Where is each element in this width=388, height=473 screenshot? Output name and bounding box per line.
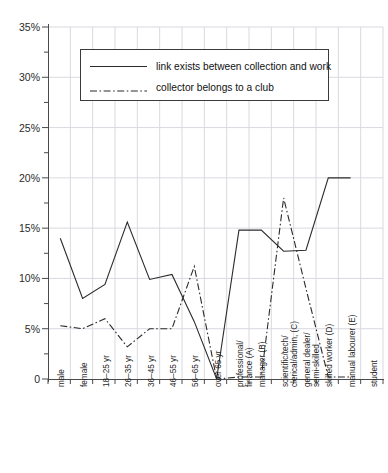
x-tick-label-14: student [370, 360, 379, 387]
dashdot-glyph [90, 86, 147, 96]
legend-label-0: link exists between collection and work [156, 61, 331, 72]
x-tick-label-4: 36–45 yr [147, 355, 156, 387]
x-tick-label-13: manual labourer (E) [348, 315, 357, 387]
x-tick-label-3: 26–35 yr [124, 355, 133, 387]
x-tick-label-10: clerical/admin, (C) [290, 321, 299, 387]
solid-line-key-icon [90, 61, 147, 71]
x-tick-label-11: general dealer/ [303, 332, 312, 387]
x-tick-label-0: male [57, 369, 66, 387]
x-tick-label-2: 18–25 yr [102, 355, 111, 387]
x-tick-label-1: female [80, 362, 89, 387]
dashdot-line-key-icon [90, 82, 147, 92]
x-tick-label-12: skilled worker (D) [325, 324, 334, 387]
x-tick-label-5: 46–55 yr [169, 355, 178, 387]
legend-entry-1: collector belongs to a club [90, 80, 274, 94]
x-tick-label-6: 56–65 yr [191, 355, 200, 387]
x-tick-label-11: semi-skilled [312, 344, 321, 387]
x-tick-label-10: scientific/tech/ [281, 336, 290, 387]
chart-root: 0 5% 10% 15% 20% 25% 30% 35% malefemale1… [0, 0, 388, 473]
legend: link exists between collection and work … [80, 49, 329, 101]
x-tick-label-9: manager (B) [258, 341, 267, 387]
y-axis-line [48, 24, 49, 382]
legend-entry-0: link exists between collection and work [90, 59, 331, 73]
x-tick-label-8: finance (A) [245, 347, 254, 387]
x-tick-label-8: professional/ [236, 341, 245, 387]
x-tick-label-7: over 65 yr [214, 351, 223, 387]
legend-label-1: collector belongs to a club [156, 82, 274, 93]
